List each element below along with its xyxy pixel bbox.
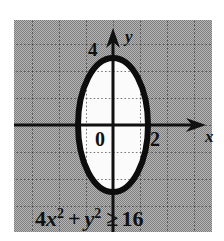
tick-label-y-4: 4 [88, 39, 98, 60]
origin-label: 0 [95, 128, 105, 150]
y-axis-label: y [123, 27, 133, 46]
equation-coefficient: 4 [35, 206, 46, 231]
graph-figure: y x 4 0 2 4x2+y2≥16 [0, 0, 224, 241]
x-axis-label: x [204, 127, 214, 146]
equation-exponent-x: 2 [57, 206, 64, 221]
equation-relation: ≥ [106, 206, 118, 231]
equation-exponent-y: 2 [94, 206, 101, 221]
equation-constant: 16 [121, 206, 143, 231]
tick-label-x-2: 2 [150, 128, 160, 150]
equation-plus: + [68, 206, 81, 231]
svg-text:4x2+y2≥16: 4x2+y2≥16 [35, 206, 143, 231]
inequality-equation: 4x2+y2≥16 [35, 206, 143, 231]
equation-var-x: x [45, 206, 57, 231]
